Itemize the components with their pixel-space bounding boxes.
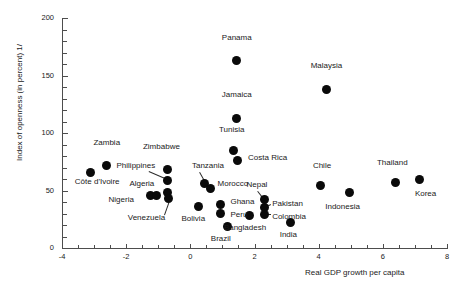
data-point-label: Jamaica xyxy=(222,90,252,99)
data-point[interactable] xyxy=(316,181,325,190)
data-point[interactable] xyxy=(152,191,161,200)
data-point-label: Chile xyxy=(313,161,331,170)
data-point-label: Brazil xyxy=(211,234,231,243)
data-point-label: Bolivia xyxy=(182,214,206,223)
x-axis-tick-label: 6 xyxy=(371,252,395,261)
y-axis-tick xyxy=(63,248,68,249)
data-point-label: Algeria xyxy=(129,179,154,188)
x-axis-tick-label: -4 xyxy=(50,252,74,261)
data-point[interactable] xyxy=(391,178,400,187)
data-point[interactable] xyxy=(233,156,242,165)
y-axis-tick-label: 150 xyxy=(20,72,54,80)
data-point[interactable] xyxy=(102,161,111,170)
data-point[interactable] xyxy=(415,175,424,184)
data-point[interactable] xyxy=(194,202,203,211)
y-axis-tick-label: 200 xyxy=(20,14,54,22)
plot-area: PanamaMalaysiaJamaicaTunisiaCosta RicaZa… xyxy=(62,18,447,248)
data-point[interactable] xyxy=(229,146,238,155)
data-point-label: Côte d'Ivoire xyxy=(75,177,120,186)
scatter-chart-figure: 050100150200 -4-202468 Index of openness… xyxy=(0,0,462,293)
data-point[interactable] xyxy=(216,209,225,218)
x-axis-tick-label: 8 xyxy=(435,252,459,261)
data-point[interactable] xyxy=(206,184,215,193)
data-point[interactable] xyxy=(163,165,172,174)
data-point-label: Ghana xyxy=(230,197,254,206)
data-point-label: Philippines xyxy=(117,161,156,170)
data-point-label: Indonesia xyxy=(325,202,360,211)
data-point-label: Nepal xyxy=(246,180,267,189)
x-axis-tick-label: 2 xyxy=(243,252,267,261)
x-axis-tick-label: -2 xyxy=(114,252,138,261)
y-axis-tick-label: 0 xyxy=(20,244,54,252)
data-point-label: Korea xyxy=(415,189,436,198)
data-point-label: Pakistan xyxy=(272,199,303,208)
y-axis-tick-label: 50 xyxy=(20,187,54,195)
data-point-label: Tanzania xyxy=(192,161,224,170)
data-point[interactable] xyxy=(216,200,225,209)
data-point-label: Peru xyxy=(230,210,247,219)
data-point-label: Panama xyxy=(222,33,252,42)
data-point-label: Nigeria xyxy=(109,195,134,204)
data-point-label: Morocco xyxy=(218,179,249,188)
data-point-label: Venezuela xyxy=(128,213,165,222)
data-point[interactable] xyxy=(232,56,241,65)
data-point[interactable] xyxy=(163,176,172,185)
data-point[interactable] xyxy=(322,85,331,94)
y-axis-tick-label: 100 xyxy=(20,129,54,137)
data-point-label: Colombia xyxy=(272,212,306,221)
data-point[interactable] xyxy=(260,210,269,219)
data-point[interactable] xyxy=(232,114,241,123)
data-point[interactable] xyxy=(164,194,173,203)
data-point-label: Costa Rica xyxy=(248,153,287,162)
data-point[interactable] xyxy=(86,168,95,177)
data-point-label: Tunisia xyxy=(219,125,245,134)
x-axis-tick-label: 4 xyxy=(307,252,331,261)
x-axis-title: Real GDP growth per capita xyxy=(305,268,404,277)
data-point-label: India xyxy=(280,230,297,239)
data-point[interactable] xyxy=(345,188,354,197)
data-point-label: Zambia xyxy=(93,138,120,147)
data-point-label: Malaysia xyxy=(311,61,343,70)
x-axis-tick xyxy=(447,244,448,249)
data-point-label: Bangladesh xyxy=(224,223,266,232)
data-point-label: Thailand xyxy=(377,158,408,167)
data-point-label: Zimbabwe xyxy=(143,142,180,151)
x-axis-tick-label: 0 xyxy=(178,252,202,261)
y-axis-title: Index of openness (in percent) 1/ xyxy=(15,18,24,188)
